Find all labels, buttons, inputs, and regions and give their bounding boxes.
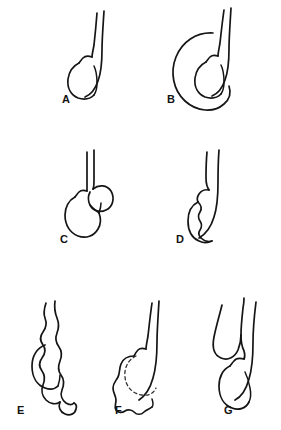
figure-plate: A B C	[0, 0, 281, 430]
spermatic-cord-posterior-c	[93, 150, 94, 189]
figure-plate-canvas: A B C	[0, 0, 281, 430]
panel-label-g: G	[224, 404, 233, 416]
panel-label-b: B	[167, 93, 175, 105]
plate-background	[0, 0, 281, 430]
panel-label-f: F	[115, 404, 122, 416]
panel-label-c: C	[60, 233, 68, 245]
panel-label-e: E	[17, 404, 25, 416]
panel-label-a: A	[62, 93, 70, 105]
panel-label-d: D	[176, 233, 184, 245]
